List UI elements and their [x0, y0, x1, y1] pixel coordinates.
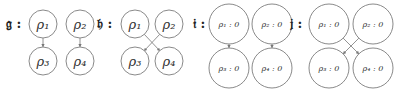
svg-text:ρ₁: ρ₁: [36, 17, 50, 32]
diagram-j: 𝔧 : ρ₁ : 0 ρ₂ : 0 ρ₃ : 0 ρ₄ : 0: [290, 4, 393, 88]
svg-text:ρ₁: ρ₁: [128, 17, 142, 32]
diagram-label-j: 𝔧 :: [290, 16, 302, 31]
node-rho4: ρ₄ : 0: [252, 48, 292, 88]
node-rho1: ρ₁: [121, 10, 149, 38]
node-rho2: ρ₂: [66, 10, 94, 38]
svg-text:ρ₄: ρ₄: [162, 54, 176, 69]
node-rho4: ρ₄: [66, 47, 94, 75]
node-rho3: ρ₃: [121, 47, 149, 75]
diagram-label-i: 𝔦 :: [193, 16, 205, 31]
svg-text:ρ₄ : 0: ρ₄ : 0: [261, 64, 283, 73]
node-rho1: ρ₁ : 0: [309, 4, 349, 44]
svg-text:ρ₃: ρ₃: [36, 54, 50, 69]
svg-text:ρ₂ : 0: ρ₂ : 0: [261, 20, 283, 29]
node-rho1: ρ₁: [29, 10, 57, 38]
svg-text:ρ₃: ρ₃: [128, 54, 142, 69]
svg-text:ρ₄ : 0: ρ₄ : 0: [362, 64, 384, 73]
node-rho3: ρ₃ : 0: [309, 48, 349, 88]
node-rho2: ρ₂ : 0: [353, 4, 393, 44]
node-rho2: ρ₂: [155, 10, 183, 38]
node-rho3: ρ₃ : 0: [209, 48, 249, 88]
node-rho4: ρ₄ : 0: [353, 48, 393, 88]
node-rho3: ρ₃: [29, 47, 57, 75]
node-rho4: ρ₄: [155, 47, 183, 75]
diagram-label-g: 𝔤 :: [6, 16, 21, 31]
node-rho2: ρ₂ : 0: [252, 4, 292, 44]
svg-text:ρ₂: ρ₂: [73, 17, 87, 32]
diagram-i: 𝔦 : ρ₁ : 0 ρ₂ : 0 ρ₃ : 0 ρ₄ : 0: [193, 4, 292, 88]
node-rho1: ρ₁ : 0: [209, 4, 249, 44]
svg-text:ρ₁ : 0: ρ₁ : 0: [318, 20, 340, 29]
svg-text:ρ₂: ρ₂: [162, 17, 176, 32]
diagram-canvas: 𝔤 : ρ₁ ρ₂ ρ₃ ρ₄ 𝔥 : ρ₁ ρ₂ ρ₃ ρ₄ 𝔦 : ρ₁ :…: [0, 0, 399, 91]
diagram-h: 𝔥 : ρ₁ ρ₂ ρ₃ ρ₄: [96, 10, 183, 75]
svg-text:ρ₄: ρ₄: [73, 54, 87, 69]
svg-text:ρ₂ : 0: ρ₂ : 0: [362, 20, 384, 29]
svg-text:ρ₃ : 0: ρ₃ : 0: [318, 64, 340, 73]
diagram-label-h: 𝔥 :: [96, 16, 112, 31]
svg-text:ρ₁ : 0: ρ₁ : 0: [218, 20, 240, 29]
diagram-g: 𝔤 : ρ₁ ρ₂ ρ₃ ρ₄: [6, 10, 94, 75]
svg-text:ρ₃ : 0: ρ₃ : 0: [218, 64, 240, 73]
